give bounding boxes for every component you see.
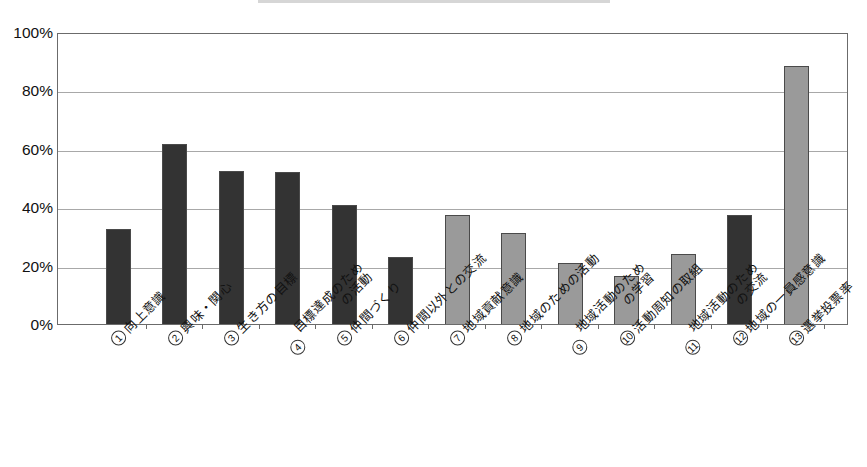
- bar-1: [106, 229, 131, 324]
- gridline-80: [58, 92, 847, 93]
- cropped-title-remnant: [258, 0, 610, 3]
- y-tick-label-40: 40%: [1, 200, 53, 216]
- x-axis-category-labels: 1向上意識2興味・関心3生き方の目標4目標達成のための活動5仲間づくり6仲間以外…: [0, 325, 867, 467]
- y-tick-label-80: 80%: [1, 84, 53, 100]
- y-tick-label-60: 60%: [1, 142, 53, 158]
- y-axis-labels: 0%20%40%60%80%100%: [0, 33, 53, 325]
- y-tick-label-20: 20%: [1, 259, 53, 275]
- chart-page: 0%20%40%60%80%100% 1向上意識2興味・関心3生き方の目標4目標…: [0, 0, 867, 467]
- y-tick-label-100: 100%: [1, 25, 53, 41]
